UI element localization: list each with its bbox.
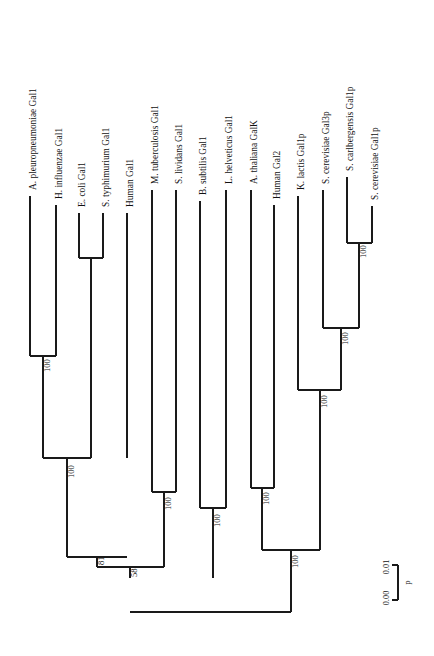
tip-genus: B. subtilis (198, 155, 208, 195)
tip-label-text: Human Gal2 (272, 151, 282, 199)
bootstrap-c_gamma: 100 (66, 465, 76, 478)
tip-label-t11: Human Gal2 (272, 151, 282, 199)
tip-label-text: S. typhimurium Gal1 (101, 127, 111, 207)
tip-genus: A. pleuropneumoniae (28, 106, 38, 190)
tip-label-text: Human Gal1 (125, 159, 135, 207)
bootstrap-c_bact58: 58 (129, 568, 139, 577)
tip-genus: Human (125, 177, 135, 207)
phylogenetic-tree-figure: A. pleuropneumoniae Gal1H. influenzae Ga… (0, 0, 434, 656)
tip-label-text: H. influenzae Gal1 (54, 128, 64, 199)
scale-label-right: 0.01 (382, 560, 391, 575)
tip-gene: GalK (249, 120, 259, 141)
bootstrap-value: 100 (261, 492, 271, 505)
bootstrap-value: 100 (358, 245, 368, 258)
scale-unit-label-text: p (402, 580, 412, 584)
tree-canvas: A. pleuropneumoniae Gal1H. influenzae Ga… (0, 0, 434, 656)
tip-genus: E. coli (77, 180, 87, 207)
tip-label-t10: A. thaliana GalK (249, 120, 259, 184)
bootstrap-c_euk: 100 (290, 555, 300, 568)
bootstrap-c_athal_hgal2: 100 (261, 492, 271, 505)
tip-label-t6: M. tuberculosis Gal1 (150, 105, 160, 184)
bootstrap-value: 81 (96, 556, 106, 565)
tip-genus: A. thaliana (249, 141, 259, 184)
bootstrap-c_scar_scer: 100 (358, 245, 368, 258)
bootstrap-value: 100 (340, 332, 350, 345)
tip-label-text: B. subtilis Gal1 (198, 136, 208, 195)
tip-gene: Gal2 (272, 151, 282, 170)
tip-gene: Gal1p (345, 86, 355, 109)
tip-label-t1: A. pleuropneumoniae Gal1 (28, 88, 38, 190)
bootstrap-value: 100 (66, 465, 76, 478)
tip-label-text: S. cerevisiae Gal1p (370, 127, 380, 200)
bootstrap-value: 100 (319, 395, 329, 408)
bootstrap-value: 100 (42, 359, 52, 372)
tip-label-text: M. tuberculosis Gal1 (150, 105, 160, 184)
tip-genus: S. cerevisiae (370, 150, 380, 200)
tip-label-text: L. helveticus Gal1 (224, 115, 234, 184)
tip-genus: K. lactis (296, 156, 306, 190)
tip-label-t9: L. helveticus Gal1 (224, 115, 234, 184)
bootstrap-c_bact81: 81 (96, 556, 106, 565)
bootstrap-value: 100 (163, 497, 173, 510)
tip-genus: L. helveticus (224, 133, 234, 184)
bootstrap-value: 100 (290, 555, 300, 568)
tip-gene: Gal3p (321, 111, 331, 134)
bootstrap-c_yeast_all: 100 (319, 395, 329, 408)
tip-gene: Gal1 (54, 128, 64, 147)
scale-unit-label: p (402, 580, 412, 584)
tip-genus: H. influenzae (54, 146, 64, 199)
bootstrap-c_bsu_lhe: 100 (212, 514, 222, 527)
scale-label-left-text: 0.00 (382, 591, 391, 606)
tip-label-t13: S. cerevisiae Gal3p (321, 111, 331, 184)
tip-label-t14: S. carlbergensis Gal1p (345, 86, 355, 171)
tip-label-text: A. thaliana GalK (249, 120, 259, 184)
tip-label-text: A. pleuropneumoniae Gal1 (28, 88, 38, 190)
bootstrap-c_mtb_sli: 100 (163, 497, 173, 510)
tip-label-text: K. lactis Gal1p (296, 133, 306, 190)
tip-gene: Gal1 (28, 88, 38, 107)
tip-label-t15: S. cerevisiae Gal1p (370, 127, 380, 200)
tip-genus: S. carlbergensis (345, 109, 355, 171)
tip-gene: Gal1 (77, 162, 87, 181)
tip-label-t4: S. typhimurium Gal1 (101, 127, 111, 207)
tip-gene: Gal1 (198, 136, 208, 155)
tip-genus: M. tuberculosis (150, 123, 160, 184)
tip-gene: Gal1p (296, 133, 306, 156)
tip-label-t5: Human Gal1 (125, 159, 135, 207)
tip-label-text: S. carlbergensis Gal1p (345, 86, 355, 171)
scale-label-right-text: 0.01 (382, 560, 391, 575)
scale-label-left: 0.00 (382, 591, 391, 606)
tip-gene: Gal1 (174, 124, 184, 143)
bootstrap-c_yeast3: 100 (340, 332, 350, 345)
tip-label-t7: S. lividans Gal1 (174, 124, 184, 184)
bootstrap-value: 58 (129, 568, 139, 577)
tip-label-t3: E. coli Gal1 (77, 162, 87, 207)
bootstrap-value: 100 (212, 514, 222, 527)
tip-label-text: E. coli Gal1 (77, 162, 87, 207)
tip-label-t12: K. lactis Gal1p (296, 133, 306, 190)
tip-label-t8: B. subtilis Gal1 (198, 136, 208, 195)
tip-label-t2: H. influenzae Gal1 (54, 128, 64, 199)
tip-gene: Gal1 (224, 115, 234, 134)
tip-label-text: S. lividans Gal1 (174, 124, 184, 184)
tip-genus: Human (272, 169, 282, 199)
tip-gene: Gal1 (125, 159, 135, 178)
tip-genus: S. lividans (174, 142, 184, 184)
bootstrap-c_apl_hin: 100 (42, 359, 52, 372)
scale-bar (392, 565, 398, 600)
tip-gene: Gal1 (150, 105, 160, 124)
tip-genus: S. cerevisiae (321, 134, 331, 184)
tip-genus: S. typhimurium (101, 146, 111, 207)
tip-gene: Gal1p (370, 127, 380, 150)
tip-label-text: S. cerevisiae Gal3p (321, 111, 331, 184)
tip-gene: Gal1 (101, 127, 111, 146)
